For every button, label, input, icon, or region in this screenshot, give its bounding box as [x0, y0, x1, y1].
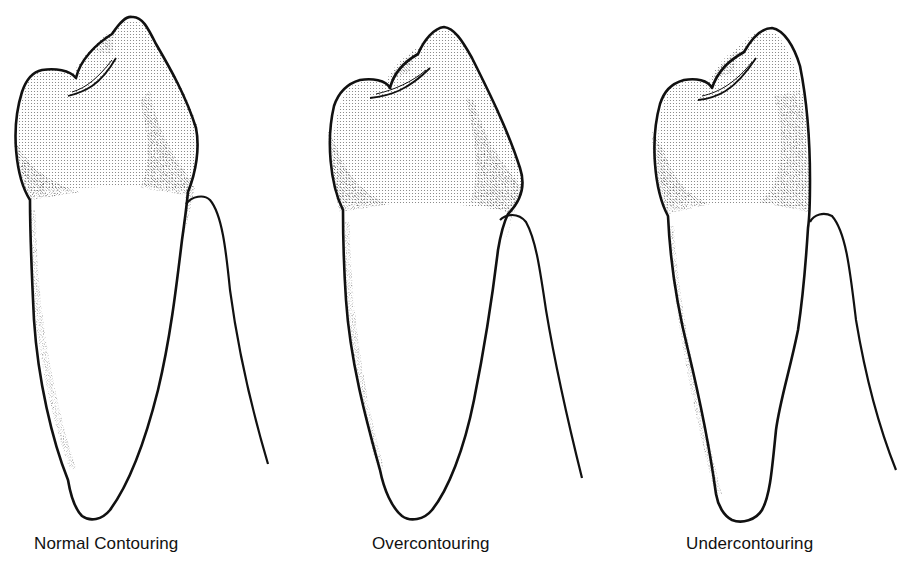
- tooth-over: [328, 27, 582, 519]
- tooth-illustrations: [0, 0, 910, 583]
- caption-overcontouring: Overcontouring: [372, 534, 490, 554]
- caption-normal-contouring: Normal Contouring: [34, 534, 178, 554]
- tooth-under: [652, 28, 896, 522]
- tooth-normal: [14, 17, 268, 519]
- caption-undercontouring: Undercontouring: [686, 534, 813, 554]
- tooth-contouring-figure: Normal Contouring Overcontouring Underco…: [0, 0, 910, 583]
